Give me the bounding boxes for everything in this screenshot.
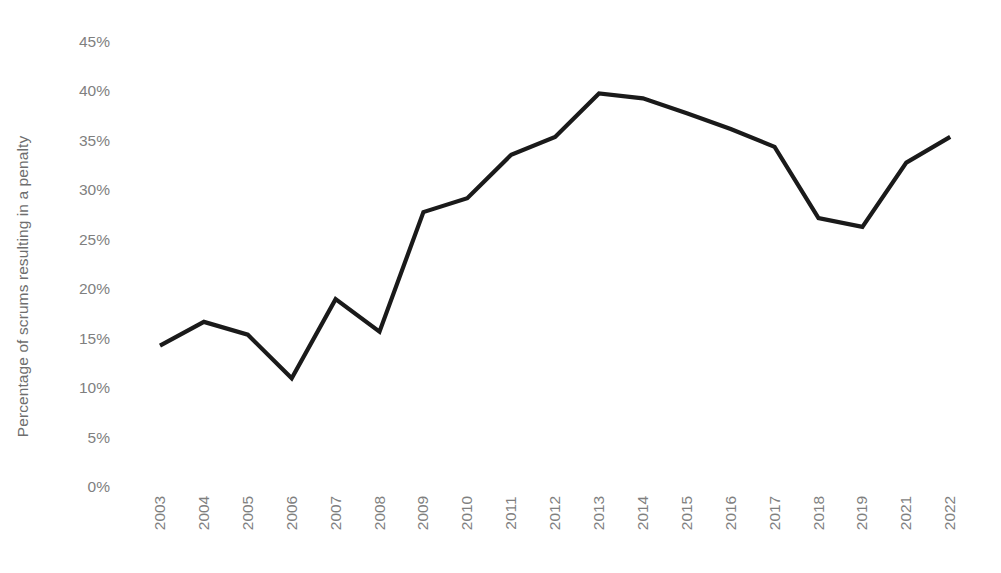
data-series-line bbox=[160, 93, 950, 378]
line-chart: Percentage of scrums resulting in a pena… bbox=[0, 0, 1001, 573]
plot-area bbox=[0, 0, 1001, 573]
